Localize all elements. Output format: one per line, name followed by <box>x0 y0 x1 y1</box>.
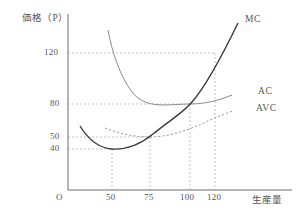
mc-curve <box>80 23 238 149</box>
x-tick-label-100: 100 <box>180 192 194 202</box>
origin-label: O <box>56 192 63 202</box>
x-tick-label-120: 120 <box>207 192 221 202</box>
x-axis-title: 生産量 <box>252 192 283 206</box>
x-tick-label-50: 50 <box>106 192 115 202</box>
y-axis-title: 価格（P） <box>22 10 68 24</box>
y-tick-label-50: 50 <box>50 131 59 141</box>
y-tick-label-40: 40 <box>50 143 59 153</box>
vertical-guide-lines <box>112 53 215 190</box>
x-tick-label-75: 75 <box>144 192 153 202</box>
avc-curve-label: AVC <box>256 103 277 113</box>
cost-curves-chart: 価格（P） 120 80 50 40 O 50 75 100 120 生産量 M… <box>0 0 302 222</box>
y-tick-label-120: 120 <box>44 47 58 57</box>
ac-curve <box>108 30 232 105</box>
avc-curve <box>105 111 233 137</box>
mc-curve-label: MC <box>245 14 261 24</box>
chart-axes <box>68 14 292 190</box>
ac-curve-label: AC <box>258 86 272 96</box>
y-tick-label-80: 80 <box>50 98 59 108</box>
